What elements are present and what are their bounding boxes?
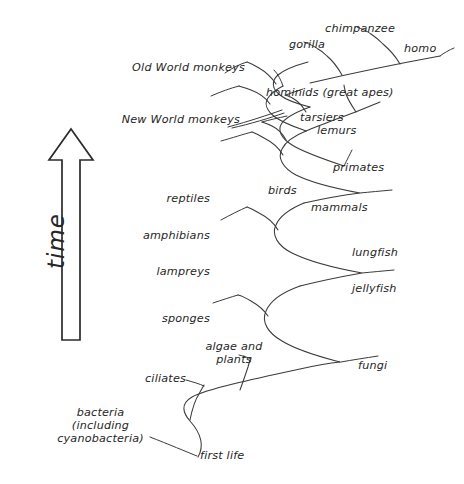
- hominids-backbone: [310, 56, 440, 83]
- branch-chimpanzee: [371, 34, 400, 64]
- leader-bacteria: [150, 437, 197, 456]
- node-new-world-monkeys-cusp: [273, 62, 310, 107]
- branch-lampreys: [247, 207, 278, 230]
- leader-lampreys: [221, 207, 247, 220]
- leader-homo: [440, 48, 454, 56]
- label-sponges: sponges: [115, 312, 210, 325]
- label-bacteria-line1: bacteria: [77, 406, 125, 419]
- label-bacteria-line3: cyanobacteria): [57, 432, 144, 445]
- branch-sponges: [238, 295, 268, 316]
- branch-amphibians: [252, 132, 283, 155]
- label-gorilla: gorilla: [262, 38, 352, 51]
- label-homo: homo: [404, 42, 436, 55]
- label-amphibians: amphibians: [100, 229, 210, 242]
- label-tarsiers: tarsiers: [300, 111, 344, 124]
- leader-amphibians: [221, 132, 252, 141]
- branch-ciliates: [190, 385, 204, 420]
- label-birds: birds: [268, 184, 297, 197]
- node-jellyfish-cusp: [274, 203, 362, 286]
- label-jellyfish: jellyfish: [352, 282, 397, 295]
- label-ciliates: ciliates: [118, 372, 186, 385]
- label-first-life: first life: [200, 449, 244, 462]
- leader-reptiles: [211, 86, 239, 96]
- label-old-world-monkeys: Old World monkeys: [95, 61, 245, 74]
- spine-root-to-fungi-node: [184, 362, 340, 457]
- leader-ciliates: [186, 380, 204, 386]
- label-lungfish: lungfish: [352, 246, 398, 259]
- label-hominids: hominids (great apes): [266, 86, 394, 99]
- label-chimpanzee: chimpanzee: [310, 22, 410, 35]
- label-fungi: fungi: [358, 359, 387, 372]
- time-axis-label: time: [43, 181, 69, 301]
- leader-jellyfish: [362, 270, 394, 273]
- label-lampreys: lampreys: [110, 265, 210, 278]
- label-mammals: mammals: [311, 201, 368, 214]
- label-primates: primates: [333, 161, 384, 174]
- label-algae-plants-line1: algae and: [205, 340, 262, 353]
- branch-gorilla: [318, 49, 342, 75]
- node-fungi-cusp: [264, 286, 340, 362]
- leader-lungfish: [360, 190, 392, 193]
- label-bacteria-line2: (including: [72, 419, 129, 432]
- label-algae-plants-line2: plants: [216, 353, 252, 366]
- label-new-world-monkeys: New World monkeys: [85, 113, 240, 126]
- phylogenetic-tree-figure: time chimpanzee gorilla homo Old World m…: [0, 0, 464, 484]
- label-reptiles: reptiles: [110, 192, 210, 205]
- leader-sponges: [213, 295, 238, 303]
- branch-old-world-monkeys: [247, 62, 276, 84]
- label-lemurs: lemurs: [317, 124, 357, 137]
